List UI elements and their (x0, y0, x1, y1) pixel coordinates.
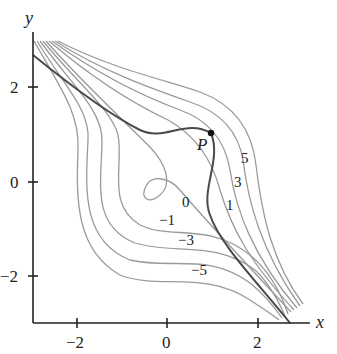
dark-curve-lower (207, 133, 290, 323)
contour-plot: P 5 3 1 0 −1 −3 −5 −2 0 2 2 0 −2 y x (0, 0, 337, 354)
y-tick-label: −2 (0, 267, 18, 286)
y-tick-label: 2 (10, 78, 19, 97)
contour-level-5 (55, 41, 300, 306)
x-tick-label: 2 (253, 333, 262, 352)
level-label-0: 0 (182, 194, 190, 210)
x-axis-label: x (315, 312, 324, 332)
x-tick-label: −2 (66, 333, 84, 352)
level-label-5: 5 (241, 150, 249, 166)
y-tick-label: 0 (10, 173, 19, 192)
level-label-1: 1 (226, 197, 234, 213)
dark-curves (33, 55, 290, 323)
level-label-minus5: −5 (191, 262, 207, 278)
point-p-label: P (196, 135, 207, 154)
level-label-minus3: −3 (178, 232, 194, 248)
level-label-3: 3 (234, 174, 242, 190)
contour-level-minus5 (37, 41, 282, 318)
contour-lines (34, 41, 303, 320)
x-tick-label: 0 (162, 333, 171, 352)
point-p-marker (208, 130, 214, 136)
level-label-minus1: −1 (159, 212, 175, 228)
contour-level-3 (52, 41, 297, 308)
tick-labels: −2 0 2 2 0 −2 (0, 78, 262, 352)
y-axis-label: y (23, 8, 33, 28)
contour-level-7 (58, 41, 303, 304)
